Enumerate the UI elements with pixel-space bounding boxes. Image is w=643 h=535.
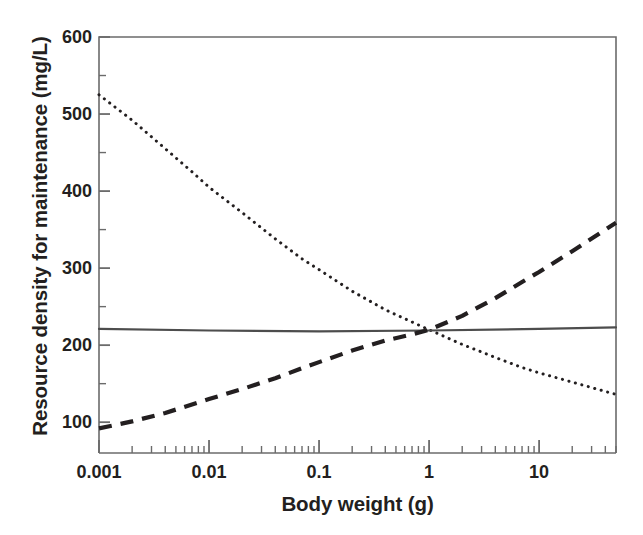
x-axis-label: Body weight (g) — [99, 492, 616, 516]
x-tick-label: 0.001 — [76, 463, 121, 481]
x-tick-label: 1 — [424, 463, 434, 481]
plot-area — [0, 0, 643, 535]
x-tick-label: 0.1 — [307, 463, 332, 481]
y-tick-label: 400 — [44, 182, 92, 200]
x-tick-label: 10 — [529, 463, 549, 481]
y-tick-label: 300 — [44, 259, 92, 277]
y-tick-label: 600 — [44, 28, 92, 46]
y-tick-label: 100 — [44, 413, 92, 431]
chart-background — [0, 0, 643, 535]
chart-figure: Resource density for maintenance (mg/L) … — [0, 0, 643, 535]
x-tick-label: 0.01 — [191, 463, 226, 481]
y-tick-label: 500 — [44, 105, 92, 123]
y-axis-tick-labels: 600500400300200100 — [40, 0, 92, 535]
y-tick-label: 200 — [44, 336, 92, 354]
